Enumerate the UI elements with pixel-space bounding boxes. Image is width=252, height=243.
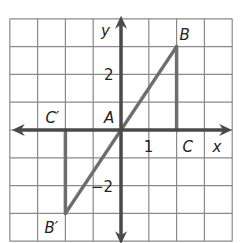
point-label-c: C (183, 138, 194, 156)
point-label-b-prime: B′ (44, 219, 58, 237)
y-axis-label: y (100, 22, 111, 40)
point-label-b: B (180, 26, 190, 44)
tick-label-x-1: 1 (144, 138, 154, 156)
point-label-a: A (103, 109, 114, 127)
point-label-c-prime: C′ (45, 109, 59, 127)
tick-label-y-2: 2 (104, 66, 114, 84)
axes (12, 16, 232, 243)
coordinate-plane: x y 1 2 −2 A B C B′ C′ (0, 0, 252, 243)
x-axis-label: x (211, 138, 221, 156)
tick-label-y-neg2: −2 (91, 178, 113, 196)
